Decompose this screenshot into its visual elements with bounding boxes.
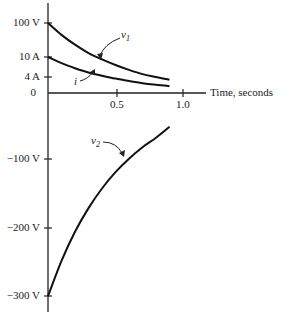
y-label-10a: 10 A bbox=[0, 50, 40, 62]
x-axis-title: Time, seconds bbox=[210, 86, 273, 98]
y-label-neg300v: −300 V bbox=[0, 289, 40, 301]
y-label-0: 0 bbox=[0, 86, 36, 98]
x-label-1.0: 1.0 bbox=[176, 98, 190, 110]
curve-label-v1: v1 bbox=[121, 28, 130, 43]
y-label-neg100v: −100 V bbox=[0, 152, 40, 164]
chart: 100 V 10 A 4 A 0 −100 V −200 V −300 V 0.… bbox=[0, 0, 296, 319]
v1-arrow bbox=[100, 38, 120, 56]
y-label-neg200v: −200 V bbox=[0, 221, 40, 233]
y-label-4a: 4 A bbox=[0, 70, 40, 82]
curve-v2 bbox=[48, 127, 170, 296]
v2-arrow bbox=[103, 142, 122, 153]
curve-label-i: i bbox=[74, 75, 77, 87]
y-label-100v: 100 V bbox=[0, 16, 40, 28]
curve-v1 bbox=[48, 23, 170, 80]
x-label-0.5: 0.5 bbox=[110, 98, 124, 110]
curve-label-v2: v2 bbox=[91, 134, 100, 149]
v2-arrowhead bbox=[119, 150, 125, 157]
chart-canvas bbox=[0, 0, 296, 319]
